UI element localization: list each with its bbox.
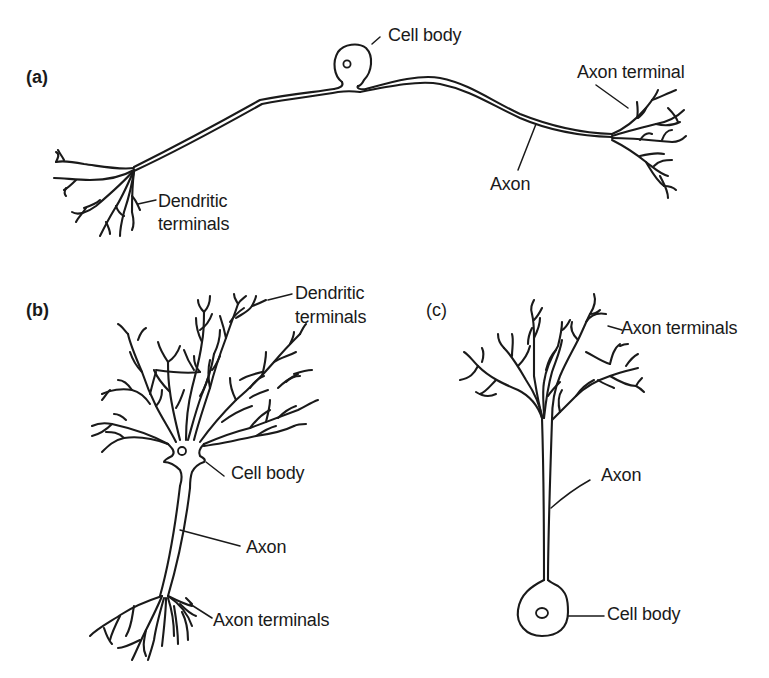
panel-b-axon bbox=[160, 486, 180, 596]
panel-a-tag: (a) bbox=[26, 67, 48, 87]
panel-a-cell-body-label: Cell body bbox=[388, 25, 461, 46]
panel-a-axon-leader bbox=[518, 124, 536, 170]
panel-c-cell-body-label: Cell body bbox=[607, 604, 680, 625]
panel-a-axon-terminal-label: Axon terminal bbox=[577, 62, 684, 83]
panel-a-axon-label: Axon bbox=[490, 174, 530, 195]
panel-a-cell-body bbox=[335, 45, 372, 86]
panel-b-cell-body-leader bbox=[206, 462, 224, 476]
panel-a-nucleus bbox=[343, 60, 350, 67]
panel-c-axon-terminals-leader bbox=[608, 326, 622, 330]
panel-b-axon-leader bbox=[180, 530, 240, 546]
panel-b-nucleus bbox=[178, 447, 186, 455]
panel-c-axon-label: Axon bbox=[601, 465, 641, 486]
panel-a-dendritic-terminals-label-line1: Dendritic bbox=[158, 191, 227, 212]
panel-b-dendritic-leader bbox=[268, 294, 292, 300]
panel-a-cell-body-leader bbox=[372, 37, 380, 44]
panel-b-axon-label: Axon bbox=[246, 537, 286, 558]
panel-b-dendritic-terminals-label-line2: terminals bbox=[295, 307, 366, 328]
panel-a-axon-terminal-leader bbox=[596, 85, 628, 108]
neuron-drawings bbox=[0, 0, 769, 678]
panel-b-dendritic-terminals-label-line1: Dendritic bbox=[295, 283, 364, 304]
panel-b-dendrites bbox=[92, 294, 318, 452]
panel-c-nucleus bbox=[536, 608, 548, 618]
panel-c-axon bbox=[542, 418, 544, 580]
panel-c-axon-terminals bbox=[460, 294, 644, 420]
panel-a-dendritic-leader bbox=[138, 200, 156, 204]
panel-a-axon-terminal bbox=[612, 90, 686, 198]
neuron-types-figure: (a) (b) (c) Cell body Axon terminal Axon… bbox=[0, 0, 769, 678]
panel-c-axon-terminals-label: Axon terminals bbox=[621, 318, 737, 339]
panel-b-tag: (b) bbox=[26, 300, 49, 320]
panel-c-tag: (c) bbox=[426, 300, 447, 320]
panel-b-axon-terminals-label: Axon terminals bbox=[213, 610, 329, 631]
panel-c-axon-leader bbox=[551, 480, 590, 508]
panel-a-dendritic-terminals-label-line2: terminals bbox=[158, 214, 229, 235]
panel-b-axon-terminals bbox=[90, 596, 196, 660]
panel-b-cell-body-label: Cell body bbox=[231, 463, 304, 484]
panel-a-dendritic-terminals bbox=[54, 150, 140, 236]
